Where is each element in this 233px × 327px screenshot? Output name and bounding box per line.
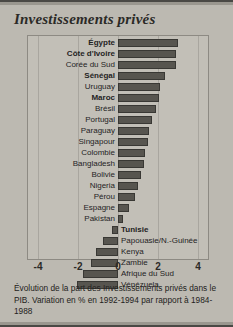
bar — [118, 61, 176, 69]
bar — [118, 72, 165, 80]
bar-label: Sénégal — [84, 70, 115, 81]
bar-label: Corée du Sud — [66, 59, 115, 70]
bar-label: Portugal — [85, 114, 115, 125]
bar — [118, 50, 176, 58]
bottom-rule — [0, 322, 233, 325]
bar-label: Pakistan — [84, 213, 115, 224]
bar — [96, 248, 118, 256]
bar — [118, 149, 145, 157]
bar-row: Pakistan — [28, 214, 208, 225]
bar — [118, 204, 129, 212]
bar — [118, 182, 138, 190]
bar-rows: ÉgypteCôte d'IvoireCorée du SudSénégalUr… — [28, 38, 208, 259]
bar-row: Kenya — [28, 247, 208, 258]
bar-label: Bangladesh — [73, 158, 115, 169]
bar — [112, 226, 118, 234]
bar-label: Maroc — [91, 92, 115, 103]
bar-row: Bangladesh — [28, 159, 208, 170]
bar-row: Côte d'Ivoire — [28, 49, 208, 60]
chart-title: Investissements privés — [14, 11, 155, 28]
bar — [118, 83, 160, 91]
bar — [118, 39, 178, 47]
bar-label: Côte d'Ivoire — [67, 48, 115, 59]
bar — [118, 116, 152, 124]
bar-label: Pérou — [94, 191, 115, 202]
bar-row: Corée du Sud — [28, 60, 208, 71]
bar-row: Nigeria — [28, 181, 208, 192]
plot-area: ÉgypteCôte d'IvoireCorée du SudSénégalUr… — [27, 35, 209, 260]
bar — [118, 127, 149, 135]
bar-row: Paraguay — [28, 126, 208, 137]
bar-row: Espagne — [28, 203, 208, 214]
bar-label: Espagne — [83, 202, 115, 213]
x-axis: -4-2024 — [27, 261, 209, 277]
bar-row: Colombie — [28, 148, 208, 159]
bar — [103, 237, 118, 245]
bar — [118, 94, 159, 102]
bar-row: Bolivie — [28, 170, 208, 181]
x-tick-label: 4 — [195, 261, 201, 272]
bar-label: Paraguay — [81, 125, 115, 136]
bar — [118, 105, 156, 113]
bar-label: Égypte — [88, 37, 115, 48]
bar — [118, 193, 135, 201]
bar — [118, 138, 148, 146]
top-rule — [0, 2, 233, 5]
bar-row: Maroc — [28, 93, 208, 104]
bar-label: Tunisie — [121, 224, 148, 235]
x-tick-label: 2 — [155, 261, 161, 272]
bar-label: Uruguay — [85, 81, 115, 92]
bar-row: Singapour — [28, 137, 208, 148]
bar-label: Singapour — [79, 136, 115, 147]
bar-row: Pérou — [28, 192, 208, 203]
bar-label: Bolivie — [91, 169, 115, 180]
bar-row: Portugal — [28, 115, 208, 126]
bar — [118, 171, 141, 179]
bar — [118, 215, 123, 223]
bar — [118, 160, 144, 168]
bar-label: Colombie — [81, 147, 115, 158]
bar-row: Uruguay — [28, 82, 208, 93]
bar-label: Nigeria — [90, 180, 115, 191]
x-tick-label: -4 — [34, 261, 43, 272]
chart-figure: Investissements privés ÉgypteCôte d'Ivoi… — [0, 0, 233, 327]
chart-caption: Évolution de la part des Investissements… — [14, 283, 222, 318]
bar-row: Égypte — [28, 38, 208, 49]
x-tick-label: 0 — [115, 261, 121, 272]
bar-row: Papouasie/N.-Guinée — [28, 236, 208, 247]
bar-row: Sénégal — [28, 71, 208, 82]
bar-row: Brésil — [28, 104, 208, 115]
x-tick-label: -2 — [74, 261, 83, 272]
bar-label: Brésil — [95, 103, 115, 114]
bar-label: Papouasie/N.-Guinée — [121, 235, 198, 246]
bar-label: Kenya — [121, 246, 144, 257]
